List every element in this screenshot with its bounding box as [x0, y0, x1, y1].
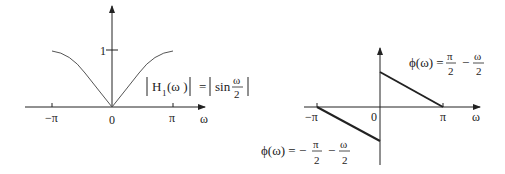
x-tick-label-pi: π [169, 111, 175, 125]
x-tick-label-neg-pi: −π [305, 110, 318, 124]
svg-text:H: H [152, 79, 161, 94]
phase-equation-lower: ϕ(ω) = − π 2 − ω 2 [261, 138, 350, 166]
svg-text:ϕ(ω) = −: ϕ(ω) = − [261, 143, 306, 158]
svg-text:2: 2 [314, 154, 320, 166]
svg-text:π: π [313, 138, 319, 150]
phase-plot: −π 0 π ω ϕ(ω) = π 2 − ω 2 ϕ(ω) = − π 2 −… [261, 48, 484, 166]
svg-text:2: 2 [476, 65, 482, 77]
svg-text:ω: ω [474, 50, 481, 62]
svg-text:−: − [462, 55, 469, 70]
y-tick-label: 1 [100, 44, 106, 58]
svg-text:−: − [328, 143, 335, 158]
x-axis-label: ω [200, 112, 208, 126]
svg-text:=: = [199, 79, 206, 94]
x-tick-label-neg-pi: −π [45, 111, 58, 125]
svg-text:sin: sin [215, 79, 231, 94]
svg-text:ϕ(ω) =: ϕ(ω) = [409, 55, 444, 70]
magnitude-equation: H 1 (ω ) = sin ω 2 [147, 74, 248, 100]
magnitude-plot: 1 −π 0 π ω H 1 (ω ) = sin ω 2 [25, 6, 248, 127]
svg-text:(ω ): (ω ) [167, 79, 187, 94]
svg-text:2: 2 [234, 88, 240, 100]
phase-equation-upper: ϕ(ω) = π 2 − ω 2 [409, 50, 484, 77]
svg-text:2: 2 [342, 154, 348, 166]
svg-text:ω: ω [233, 74, 240, 86]
x-tick-label-zero: 0 [109, 113, 115, 127]
svg-text:ω: ω [340, 138, 347, 150]
diagram-canvas: 1 −π 0 π ω H 1 (ω ) = sin ω 2 −π 0 π [0, 0, 505, 174]
svg-text:2: 2 [448, 65, 454, 77]
phase-segment-positive [380, 72, 443, 107]
svg-text:1: 1 [162, 88, 167, 98]
x-tick-label-pi: π [440, 110, 446, 124]
x-axis-label: ω [472, 110, 480, 124]
x-tick-label-zero: 0 [371, 110, 377, 124]
svg-text:π: π [447, 50, 453, 62]
